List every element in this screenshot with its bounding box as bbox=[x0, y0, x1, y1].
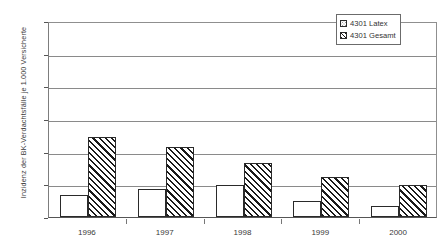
bar-chart: Inzidenz der BK-Verdachtsfälle je 1.000 … bbox=[0, 0, 448, 252]
bar-2000-gesamt bbox=[399, 185, 427, 217]
plot-area bbox=[48, 22, 437, 218]
legend-label-gesamt: 4301 Gesamt bbox=[350, 31, 396, 40]
y-tick-mark bbox=[44, 218, 48, 219]
chart-legend: 4301 Latex 4301 Gesamt bbox=[336, 14, 401, 45]
bar-1998-gesamt bbox=[244, 163, 272, 217]
legend-label-latex: 4301 Latex bbox=[350, 19, 388, 28]
x-tick-label-1999: 1999 bbox=[285, 228, 355, 237]
bar-1998-latex bbox=[216, 185, 244, 217]
bars-layer bbox=[49, 23, 436, 217]
legend-swatch-gesamt-icon bbox=[340, 32, 347, 39]
legend-item-latex[interactable]: 4301 Latex bbox=[340, 17, 396, 29]
legend-swatch-latex-icon bbox=[340, 20, 347, 27]
x-separator-tick bbox=[204, 219, 205, 224]
bar-2000-latex bbox=[371, 206, 399, 217]
y-axis-title: Inzidenz der BK-Verdachtsfälle je 1.000 … bbox=[19, 0, 28, 228]
bar-1997-gesamt bbox=[166, 147, 194, 217]
bar-1999-latex bbox=[293, 201, 321, 217]
bar-1996-latex bbox=[60, 195, 88, 217]
x-tick-label-1996: 1996 bbox=[52, 228, 122, 237]
legend-item-gesamt[interactable]: 4301 Gesamt bbox=[340, 29, 396, 41]
x-tick-label-2000: 2000 bbox=[363, 228, 433, 237]
bar-1999-gesamt bbox=[321, 177, 349, 217]
bar-1996-gesamt bbox=[88, 137, 116, 217]
x-tick-label-1998: 1998 bbox=[208, 228, 278, 237]
x-tick-label-1997: 1997 bbox=[130, 228, 200, 237]
x-separator-tick bbox=[359, 219, 360, 224]
bar-1997-latex bbox=[138, 189, 166, 217]
x-separator-tick bbox=[126, 219, 127, 224]
x-separator-tick bbox=[281, 219, 282, 224]
